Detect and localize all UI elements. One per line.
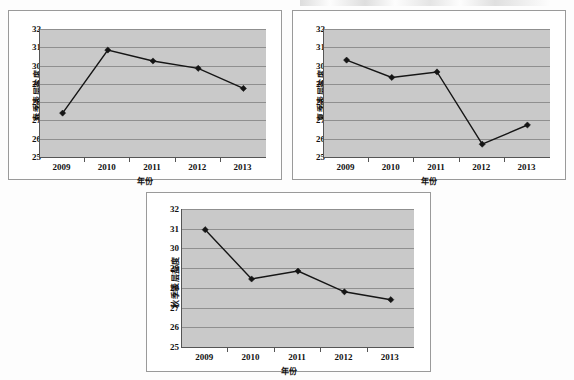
x-tick-label: 2013	[381, 353, 399, 362]
data-point-marker	[295, 268, 301, 274]
x-axis-ticks: 20092010201120122013	[9, 158, 281, 174]
x-tick-label: 2011	[143, 163, 161, 172]
x-tick-label: 2012	[472, 163, 490, 172]
x-tick-label: 2010	[382, 163, 400, 172]
chart-body: 夏季表层盐度3231302928272625200920102011201220…	[293, 11, 565, 179]
x-tick-label: 2013	[517, 163, 535, 172]
y-axis-ticks: 3231302928272625	[161, 193, 179, 371]
data-point-marker	[524, 122, 530, 128]
x-tick-mark	[320, 348, 321, 352]
x-tick-mark	[368, 158, 369, 162]
spring-surface-salinity-chart: 春季表层盐度3231302928272625200920102011201220…	[8, 10, 282, 180]
summer-surface-salinity-chart: 夏季表层盐度3231302928272625200920102011201220…	[292, 10, 566, 180]
x-axis-label: 年份	[9, 175, 281, 186]
autumn-surface-salinity-chart: 秋季表层盐度3231302928272625200920102011201220…	[146, 192, 431, 372]
x-tick-mark	[274, 348, 275, 352]
x-tick-label: 2009	[195, 353, 213, 362]
x-tick-mark	[175, 158, 176, 162]
data-point-marker	[150, 58, 156, 64]
x-tick-label: 2009	[53, 163, 71, 172]
y-tick-label: 27	[163, 303, 179, 312]
x-tick-mark	[504, 158, 505, 162]
x-tick-mark	[227, 348, 228, 352]
y-tick-label: 28	[163, 283, 179, 292]
data-point-marker	[240, 85, 246, 91]
y-tick-label: 26	[163, 323, 179, 332]
x-tick-label: 2013	[233, 163, 251, 172]
x-tick-label: 2011	[427, 163, 445, 172]
x-tick-mark	[367, 348, 368, 352]
y-tick-label: 32	[163, 205, 179, 214]
data-point-marker	[344, 57, 350, 63]
x-tick-label: 2010	[242, 353, 260, 362]
scan-artifact	[300, 0, 550, 6]
x-axis-label: 年份	[293, 175, 565, 186]
x-axis-ticks: 20092010201120122013	[293, 158, 565, 174]
x-tick-mark	[459, 158, 460, 162]
data-point-marker	[195, 65, 201, 71]
x-axis-label: 年份	[147, 365, 430, 376]
plot-area	[39, 29, 266, 158]
data-series	[182, 209, 414, 347]
series-line	[205, 230, 391, 300]
y-tick-label: 29	[163, 264, 179, 273]
data-point-marker	[389, 74, 395, 80]
data-series	[324, 29, 550, 157]
chart-body: 春季表层盐度3231302928272625200920102011201220…	[9, 11, 281, 179]
plot-area	[323, 29, 550, 158]
x-tick-mark	[129, 158, 130, 162]
y-tick-label: 30	[163, 244, 179, 253]
x-tick-label: 2011	[288, 353, 306, 362]
data-series	[40, 29, 266, 157]
x-tick-label: 2012	[334, 353, 352, 362]
plot-area	[181, 209, 414, 348]
chart-body: 秋季表层盐度3231302928272625200920102011201220…	[147, 193, 430, 371]
figure-page: 春季表层盐度3231302928272625200920102011201220…	[0, 0, 574, 380]
data-point-marker	[388, 297, 394, 303]
y-tick-label: 31	[163, 224, 179, 233]
x-tick-mark	[413, 158, 414, 162]
x-tick-label: 2012	[188, 163, 206, 172]
x-axis-ticks: 20092010201120122013	[147, 348, 430, 364]
x-tick-mark	[220, 158, 221, 162]
data-point-marker	[341, 289, 347, 295]
x-tick-label: 2009	[337, 163, 355, 172]
x-tick-label: 2010	[98, 163, 116, 172]
x-tick-mark	[84, 158, 85, 162]
